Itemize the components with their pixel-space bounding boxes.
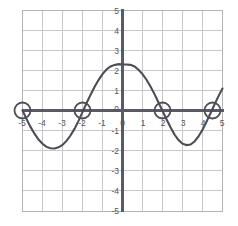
coordinate-plane-svg: -5 -4 -3 -2 -1 1 2 3 4 5 5 4 3 2 1 0 -1 … xyxy=(0,0,238,226)
y-tick-label: 3 xyxy=(114,46,119,56)
y-tick-label: 1 xyxy=(114,86,119,96)
x-tick-label: -1 xyxy=(98,118,106,128)
x-tick-label: 1 xyxy=(141,118,146,128)
x-tick-label: 3 xyxy=(181,118,186,128)
y-tick-label: -3 xyxy=(111,166,119,176)
x-tick-label: -3 xyxy=(58,118,66,128)
y-tick-label: -2 xyxy=(111,146,119,156)
y-tick-label: 4 xyxy=(114,26,119,36)
y-tick-label: 0 xyxy=(114,104,119,114)
x-tick-label: 2 xyxy=(161,118,166,128)
axes xyxy=(22,9,224,212)
y-tick-label: 5 xyxy=(114,6,119,16)
x-tick-label: 5 xyxy=(220,118,225,128)
y-tick-label: -5 xyxy=(111,206,119,216)
origin-tick-label: 0 xyxy=(120,118,125,128)
y-tick-label: 2 xyxy=(114,66,119,76)
x-tick-label: -4 xyxy=(38,118,46,128)
x-tick-label: -5 xyxy=(18,118,26,128)
graph-figure: -5 -4 -3 -2 -1 1 2 3 4 5 5 4 3 2 1 0 -1 … xyxy=(0,0,238,226)
y-tick-label: -1 xyxy=(111,126,119,136)
y-tick-label: -4 xyxy=(111,186,119,196)
